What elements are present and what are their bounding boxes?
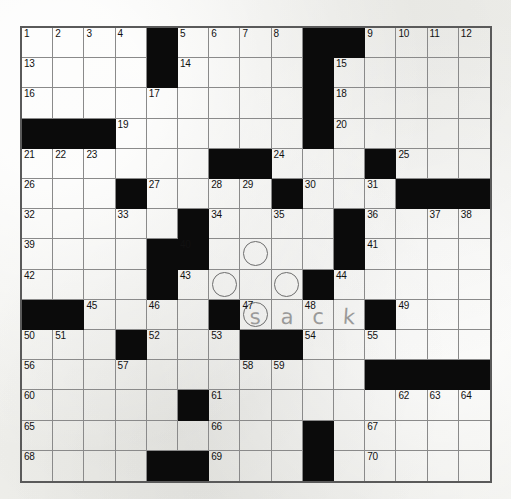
grid-cell[interactable]: 9 (365, 28, 396, 58)
grid-cell[interactable] (428, 119, 459, 149)
grid-cell[interactable] (272, 390, 303, 420)
grid-cell[interactable] (428, 270, 459, 300)
grid-cell[interactable]: 49 (396, 300, 427, 330)
grid-cell[interactable]: 47s (240, 300, 271, 330)
grid-cell[interactable] (334, 330, 365, 360)
grid-cell[interactable] (116, 421, 147, 451)
grid-cell[interactable]: 54 (303, 330, 334, 360)
grid-cell[interactable]: 34 (209, 209, 240, 239)
grid-cell[interactable] (303, 239, 334, 269)
grid-cell[interactable] (178, 88, 209, 118)
grid-cell[interactable] (240, 209, 271, 239)
grid-cell[interactable]: 61 (209, 390, 240, 420)
grid-cell[interactable] (396, 451, 427, 481)
grid-cell[interactable]: 6 (209, 28, 240, 58)
grid-cell[interactable]: 2 (53, 28, 84, 58)
grid-cell[interactable] (147, 421, 178, 451)
grid-cell[interactable] (116, 58, 147, 88)
grid-cell[interactable] (178, 149, 209, 179)
grid-cell[interactable] (178, 421, 209, 451)
grid-cell[interactable] (147, 149, 178, 179)
grid-cell[interactable]: 14 (178, 58, 209, 88)
grid-cell[interactable] (53, 390, 84, 420)
grid-cell[interactable] (116, 88, 147, 118)
grid-cell[interactable] (428, 239, 459, 269)
grid-cell[interactable] (116, 451, 147, 481)
grid-cell[interactable] (84, 330, 115, 360)
grid-cell[interactable] (84, 270, 115, 300)
grid-cell[interactable]: 15 (334, 58, 365, 88)
grid-cell[interactable] (53, 360, 84, 390)
grid-cell[interactable] (396, 239, 427, 269)
grid-cell[interactable] (240, 390, 271, 420)
crossword-grid-container[interactable]: 1234567891011121314151617181920212223242… (20, 26, 492, 483)
grid-cell[interactable] (209, 270, 240, 300)
crossword-grid[interactable]: 1234567891011121314151617181920212223242… (20, 26, 492, 483)
grid-cell[interactable] (459, 300, 490, 330)
grid-cell[interactable] (396, 209, 427, 239)
grid-cell[interactable]: 59 (272, 360, 303, 390)
grid-cell[interactable] (147, 209, 178, 239)
grid-cell[interactable]: 50 (22, 330, 53, 360)
grid-cell[interactable]: 17 (147, 88, 178, 118)
grid-cell[interactable] (459, 58, 490, 88)
grid-cell[interactable]: 67 (365, 421, 396, 451)
grid-cell[interactable] (116, 239, 147, 269)
grid-cell[interactable] (53, 209, 84, 239)
grid-cell[interactable]: 35 (272, 209, 303, 239)
grid-cell[interactable] (53, 421, 84, 451)
grid-cell[interactable] (365, 88, 396, 118)
grid-cell[interactable] (84, 451, 115, 481)
grid-cell[interactable] (459, 421, 490, 451)
grid-cell[interactable]: 46 (147, 300, 178, 330)
grid-cell[interactable]: 68 (22, 451, 53, 481)
grid-cell[interactable] (209, 119, 240, 149)
grid-cell[interactable] (396, 119, 427, 149)
grid-cell[interactable]: 29 (240, 179, 271, 209)
grid-cell[interactable] (84, 209, 115, 239)
grid-cell[interactable]: 66 (209, 421, 240, 451)
grid-cell[interactable]: 48c (303, 300, 334, 330)
grid-cell[interactable] (116, 270, 147, 300)
grid-cell[interactable] (84, 360, 115, 390)
grid-cell[interactable]: 27 (147, 179, 178, 209)
grid-cell[interactable] (459, 451, 490, 481)
grid-cell[interactable]: 3 (84, 28, 115, 58)
grid-cell[interactable] (178, 119, 209, 149)
grid-cell[interactable] (53, 239, 84, 269)
grid-cell[interactable]: 45 (84, 300, 115, 330)
grid-cell[interactable] (334, 421, 365, 451)
grid-cell[interactable]: 69 (209, 451, 240, 481)
grid-cell[interactable]: k (334, 300, 365, 330)
grid-cell[interactable]: 58 (240, 360, 271, 390)
grid-cell[interactable]: 63 (428, 390, 459, 420)
grid-cell[interactable]: 62 (396, 390, 427, 420)
grid-cell[interactable] (53, 179, 84, 209)
grid-cell[interactable]: 4 (116, 28, 147, 58)
grid-cell[interactable] (178, 300, 209, 330)
grid-cell[interactable] (396, 330, 427, 360)
grid-cell[interactable]: 43 (178, 270, 209, 300)
grid-cell[interactable]: 36 (365, 209, 396, 239)
grid-cell[interactable] (272, 119, 303, 149)
grid-cell[interactable] (240, 119, 271, 149)
grid-cell[interactable] (240, 421, 271, 451)
grid-cell[interactable] (178, 179, 209, 209)
grid-cell[interactable]: a (272, 300, 303, 330)
grid-cell[interactable]: 26 (22, 179, 53, 209)
grid-cell[interactable]: 38 (459, 209, 490, 239)
grid-cell[interactable] (53, 58, 84, 88)
grid-cell[interactable] (116, 149, 147, 179)
grid-cell[interactable]: 42 (22, 270, 53, 300)
grid-cell[interactable] (428, 421, 459, 451)
grid-cell[interactable]: 60 (22, 390, 53, 420)
grid-cell[interactable] (178, 360, 209, 390)
grid-cell[interactable]: 31 (365, 179, 396, 209)
grid-cell[interactable]: 39 (22, 239, 53, 269)
grid-cell[interactable]: 57 (116, 360, 147, 390)
grid-cell[interactable] (272, 239, 303, 269)
grid-cell[interactable] (272, 270, 303, 300)
grid-cell[interactable] (209, 88, 240, 118)
grid-cell[interactable]: 25 (396, 149, 427, 179)
grid-cell[interactable]: 18 (334, 88, 365, 118)
